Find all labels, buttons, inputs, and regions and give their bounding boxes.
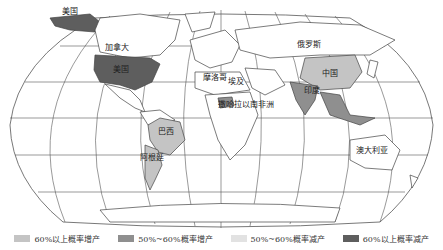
label-brazil: 巴西 <box>158 127 174 136</box>
label-sub-saharan-africa: 撒哈拉以南非洲 <box>218 99 274 109</box>
label-argentina: 阿根廷 <box>140 152 164 162</box>
map-legend: 60%以上概率增产 50%~60%概率增产 50%~60%概率减产 60%以上概… <box>0 229 443 247</box>
legend-item-over60-increase: 60%以上概率增产 <box>14 233 100 244</box>
legend-swatch <box>343 235 359 242</box>
legend-swatch <box>231 235 247 242</box>
legend-item-over60-decrease: 60%以上概率减产 <box>343 233 429 244</box>
label-china: 中国 <box>322 68 338 78</box>
legend-label: 60%以上概率增产 <box>34 233 100 244</box>
label-usa: 美国 <box>113 64 129 74</box>
label-india: 印度 <box>304 85 320 95</box>
region-alaska <box>50 14 100 32</box>
label-canada: 加拿大 <box>105 42 129 52</box>
label-russia: 俄罗斯 <box>297 39 321 49</box>
label-australia: 澳大利亚 <box>356 145 388 155</box>
legend-swatch <box>118 235 134 242</box>
label-usa-alaska: 美国 <box>62 6 78 16</box>
legend-label: 60%以上概率减产 <box>363 233 429 244</box>
legend-label: 50%~60%概率增产 <box>138 233 212 244</box>
legend-label: 50%~60%概率减产 <box>251 233 325 244</box>
legend-item-50to60-increase: 50%~60%概率增产 <box>118 233 212 244</box>
legend-swatch <box>14 235 30 242</box>
label-morocco: 摩洛哥 <box>203 72 227 82</box>
legend-item-50to60-decrease: 50%~60%概率减产 <box>231 233 325 244</box>
label-egypt: 埃及 <box>228 76 244 86</box>
world-map: 美国 加拿大 美国 俄罗斯 中国 印度 摩洛哥 埃及 撒哈拉以南非洲 巴西 阿根… <box>0 0 443 228</box>
